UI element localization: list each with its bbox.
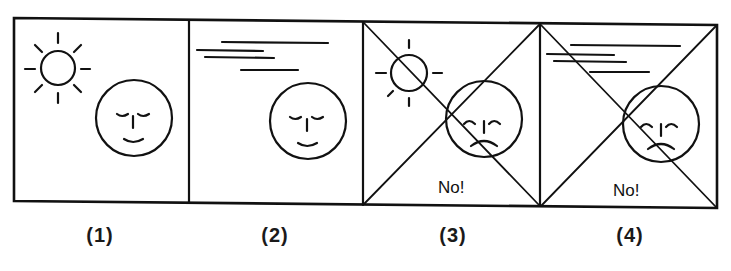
no-label: No! bbox=[613, 181, 639, 200]
cross-out-icon bbox=[541, 25, 716, 207]
panel-4: No! bbox=[541, 25, 716, 207]
panel-caption-1: (1) bbox=[86, 224, 113, 247]
panel-3: No! bbox=[364, 23, 539, 205]
panel-caption-4: (4) bbox=[616, 224, 643, 247]
sun-icon bbox=[25, 33, 90, 103]
content-face-icon bbox=[270, 83, 346, 159]
panel-2 bbox=[197, 42, 346, 159]
panel-1 bbox=[25, 33, 172, 156]
content-face-icon bbox=[96, 80, 172, 156]
panel-caption-3: (3) bbox=[439, 224, 466, 247]
panel-caption-2: (2) bbox=[261, 224, 288, 247]
no-label: No! bbox=[438, 178, 464, 197]
sun-icon bbox=[376, 40, 442, 106]
outer-frame bbox=[14, 18, 717, 208]
wind-lines-icon bbox=[197, 42, 328, 70]
wind-lines-icon bbox=[547, 45, 680, 72]
